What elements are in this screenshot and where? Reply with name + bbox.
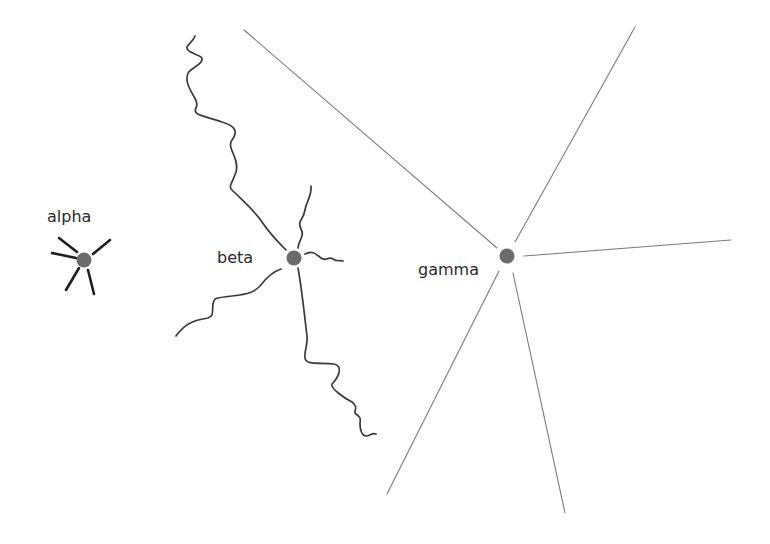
alpha-label: alpha [47, 207, 91, 226]
gamma-label: gamma [418, 260, 479, 279]
beta-waves [176, 36, 376, 436]
gamma-ray-upper-left [244, 30, 497, 248]
alpha-node-dot[interactable] [77, 253, 92, 268]
beta-wave-up [298, 186, 311, 248]
beta-label: beta [217, 248, 253, 267]
beta-node-dot[interactable] [287, 251, 302, 266]
gamma-ray-right [524, 240, 731, 256]
node-beta: beta [176, 36, 376, 436]
alpha-ray-lower-left [66, 268, 79, 290]
node-gamma: gamma [244, 27, 731, 513]
alpha-ray-upper-left [59, 238, 77, 252]
beta-wave-down [298, 268, 376, 436]
alpha-ray-left [52, 253, 76, 258]
gamma-node-dot[interactable] [500, 249, 515, 264]
beta-wave-lower-left [176, 269, 281, 336]
beta-wave-upper-left [187, 36, 286, 250]
gamma-ray-upper-right [515, 27, 635, 242]
beta-wave-right [305, 252, 343, 261]
alpha-ray-upper-right [93, 240, 110, 254]
gamma-ray-lower-right [513, 273, 565, 513]
node-alpha: alpha [47, 207, 110, 294]
gamma-ray-lower-left [387, 271, 499, 494]
network-diagram: alpha beta gamma [0, 0, 770, 544]
gamma-rays [244, 27, 731, 513]
alpha-ray-lower-right [88, 270, 94, 294]
